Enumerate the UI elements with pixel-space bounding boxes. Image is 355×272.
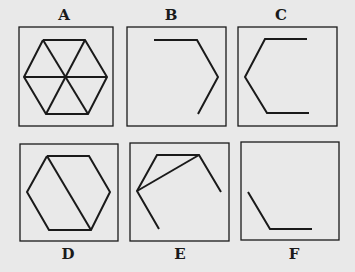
panel-label-d: D (53, 245, 83, 263)
figure-line (245, 39, 309, 113)
panel-a (19, 27, 113, 126)
panel-frame (238, 27, 337, 126)
panel-label-f: F (279, 245, 309, 263)
puzzle-canvas (0, 0, 355, 272)
panel-frame (127, 27, 226, 126)
panel-label-a: A (49, 6, 79, 24)
figure-line (248, 192, 312, 229)
panel-c (238, 27, 337, 126)
panel-label-e: E (165, 245, 195, 263)
panel-frame (241, 142, 339, 240)
figure-line (47, 156, 91, 230)
figure-line (154, 40, 218, 114)
panel-label-c: C (266, 6, 296, 24)
panel-f (241, 142, 339, 240)
panel-b (127, 27, 226, 126)
panel-e (130, 143, 229, 241)
panel-d (20, 144, 118, 241)
panel-label-b: B (156, 6, 186, 24)
panel-frame (130, 143, 229, 241)
